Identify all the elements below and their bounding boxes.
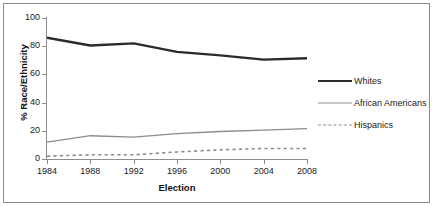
y-tick-label: 0 <box>14 154 40 163</box>
series-line <box>47 129 307 142</box>
legend-swatch-icon <box>318 120 352 130</box>
legend-label: African Americans <box>352 98 427 108</box>
y-tick-mark <box>42 46 46 47</box>
x-tick-label: 2000 <box>200 166 240 176</box>
y-tick-mark <box>42 18 46 19</box>
x-tick-mark <box>90 160 91 164</box>
legend-label: Hispanics <box>352 120 393 130</box>
chart-figure: 020406080100 198419881992199620002004200… <box>0 0 433 207</box>
legend-label: Whites <box>352 76 382 86</box>
x-tick-mark <box>220 160 221 164</box>
x-tick-label: 1992 <box>114 166 154 176</box>
x-tick-label: 2004 <box>244 166 284 176</box>
legend-swatch-icon <box>318 76 352 86</box>
legend-item[interactable]: African Americans <box>318 92 430 114</box>
y-tick-mark <box>42 131 46 132</box>
legend-swatch-icon <box>318 98 352 108</box>
x-tick-label: 1996 <box>157 166 197 176</box>
x-tick-mark <box>307 160 308 164</box>
y-tick-mark <box>42 159 46 160</box>
legend-item[interactable]: Whites <box>318 70 430 92</box>
legend-item[interactable]: Hispanics <box>318 114 430 136</box>
x-tick-label: 1988 <box>70 166 110 176</box>
series-line <box>47 38 307 60</box>
x-tick-mark <box>264 160 265 164</box>
y-tick-mark <box>42 103 46 104</box>
x-tick-label: 1984 <box>27 166 67 176</box>
x-tick-mark <box>134 160 135 164</box>
y-axis-title: % Race/Ethnicity <box>18 13 29 153</box>
x-tick-mark <box>47 160 48 164</box>
x-tick-mark <box>177 160 178 164</box>
plot-area <box>47 18 307 159</box>
chart-legend: WhitesAfrican AmericansHispanics <box>318 70 430 136</box>
y-tick-mark <box>42 74 46 75</box>
series-line <box>47 148 307 156</box>
series-lines <box>47 18 307 159</box>
x-tick-label: 2008 <box>287 166 327 176</box>
x-axis-title: Election <box>47 182 307 193</box>
